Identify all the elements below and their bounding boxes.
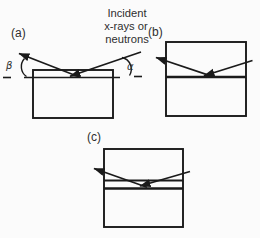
reflected-ray (94, 169, 147, 188)
panel-b: (b) (148, 25, 253, 116)
incident-angle-label: α (127, 61, 134, 72)
reflected-ray (19, 54, 80, 78)
panel-c-label: (c) (87, 130, 101, 144)
exit-angle-label: β (5, 60, 13, 71)
panel-c: (c) (87, 130, 190, 227)
incident-beam-caption: Incident x-rays or neutrons (104, 7, 149, 45)
panel-b-label: (b) (148, 25, 163, 39)
figure-canvas: Incident x-rays or neutrons (a) β α (0, 0, 260, 238)
caption-line-1: Incident (107, 7, 147, 19)
caption-line-2: x-rays or (104, 20, 148, 32)
sample-box (166, 42, 246, 116)
reflected-ray (156, 58, 213, 77)
caption-line-3: neutrons (105, 33, 149, 45)
reflectometry-geometry-figure: Incident x-rays or neutrons (a) β α (0, 0, 260, 238)
panel-a-label: (a) (11, 26, 26, 40)
exit-angle-arc (21, 59, 26, 77)
